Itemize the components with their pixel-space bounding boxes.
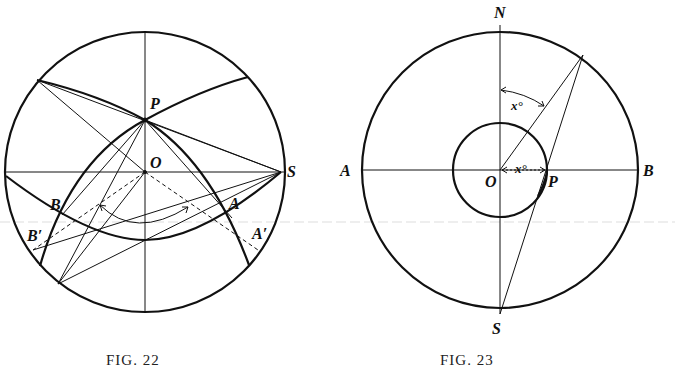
fig23-caption: FIG. 23: [440, 352, 494, 369]
fig23-angle-label-upper: x°: [511, 98, 523, 114]
figure-23: [362, 25, 638, 314]
fig22-label-A: A: [229, 196, 240, 212]
fig22-label-B-prime: B′: [27, 228, 42, 244]
fig22-caption: FIG. 22: [106, 352, 160, 369]
fig23-label-P: P: [548, 174, 558, 190]
fig22-label-B: B: [50, 197, 61, 213]
fig23-label-A: A: [340, 163, 351, 179]
fig23-label-S: S: [492, 321, 501, 337]
fig23-label-O: O: [485, 174, 497, 190]
fig23-label-B: B: [643, 163, 654, 179]
fig22-label-P: P: [150, 96, 160, 112]
fig22-label-O: O: [150, 155, 162, 171]
fig22-label-S: S: [287, 164, 296, 180]
fig23-label-N: N: [494, 5, 506, 21]
figure-22: [5, 32, 285, 312]
fig23-angle-label-lower: x°: [515, 161, 527, 177]
fig22-label-A-prime: A′: [252, 226, 267, 242]
